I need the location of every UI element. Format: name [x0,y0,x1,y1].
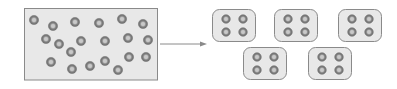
particle [117,14,126,23]
particle [301,15,310,24]
cluster-box [309,48,352,80]
particle [348,15,357,24]
particle [253,66,262,75]
source-container [25,9,158,81]
particle [123,33,132,42]
particle [284,28,293,37]
particle [54,39,63,48]
particle [335,53,344,62]
arrow-head-icon [200,42,207,47]
cluster-group [213,10,256,42]
particle [365,28,374,37]
cluster-group [244,48,287,80]
particle [100,36,109,45]
particle [113,65,122,74]
particle [41,34,50,43]
particle [222,28,231,37]
cluster-box [275,10,318,42]
particle [335,66,344,75]
cluster-box [339,10,382,42]
particle [138,19,147,28]
cluster-box [244,48,287,80]
cluster-box [213,10,256,42]
particle [284,15,293,24]
particle [239,28,248,37]
particle [66,47,75,56]
clustering-diagram [0,0,397,89]
particle [124,52,133,61]
particle [270,66,279,75]
particle [100,56,109,65]
particle [46,57,55,66]
arrow [160,42,207,47]
particle [239,15,248,24]
particle [253,53,262,62]
particle [76,36,85,45]
particle [143,35,152,44]
particle [365,15,374,24]
particle [67,64,76,73]
particle [270,53,279,62]
particle [70,17,79,26]
cluster-group [309,48,352,80]
particle [301,28,310,37]
particle [85,61,94,70]
particle [318,53,327,62]
particle [48,21,57,30]
particle [318,66,327,75]
particle [222,15,231,24]
cluster-group [275,10,318,42]
cluster-groups [213,10,382,80]
particle [94,18,103,27]
particle [348,28,357,37]
particle [29,15,38,24]
particle [141,52,150,61]
cluster-group [339,10,382,42]
